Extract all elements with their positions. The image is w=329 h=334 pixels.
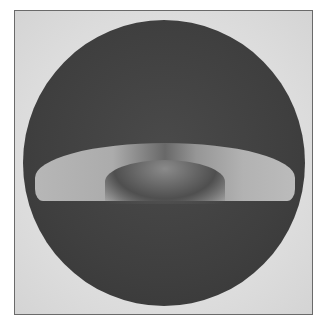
band-central-shadow [105, 160, 225, 204]
